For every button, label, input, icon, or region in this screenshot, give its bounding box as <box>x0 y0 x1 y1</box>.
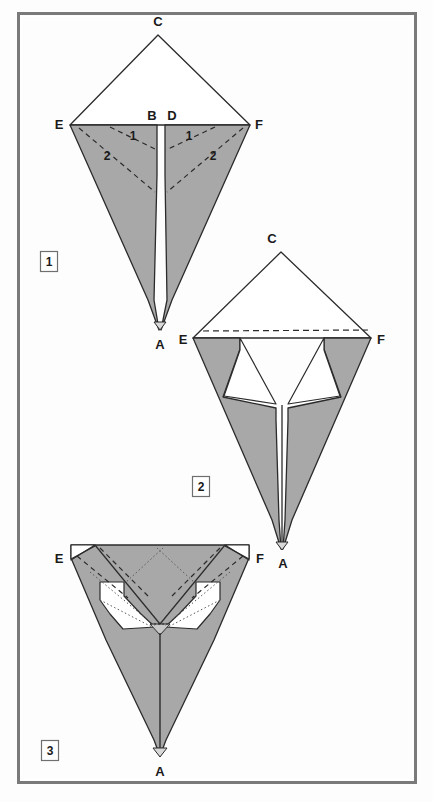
step-badge-2-label: 2 <box>198 480 205 494</box>
step-2-figure: C E F A <box>179 231 385 571</box>
origami-diagram-page: C E B D F A 1 2 1 2 <box>0 0 433 802</box>
step1-vertex-label-B: B <box>147 108 156 123</box>
step1-crease-number-1-left: 1 <box>130 129 137 143</box>
step3-vertex-label-E: E <box>55 551 64 566</box>
step2-upper-white-triangle <box>193 252 371 338</box>
step1-upper-white-triangle <box>70 35 250 125</box>
step1-crease-number-1-right: 1 <box>186 129 193 143</box>
step-3-figure: E F A <box>55 545 264 779</box>
step1-apex-tip <box>154 322 166 330</box>
step-badge-2: 2 <box>193 477 210 497</box>
step2-vertex-label-E: E <box>179 332 188 347</box>
step1-left-gray-flap <box>70 125 159 330</box>
step1-vertex-label-C: C <box>153 14 163 29</box>
step-badge-3-label: 3 <box>47 744 54 758</box>
step1-vertex-label-F: F <box>255 117 263 132</box>
step2-vertex-label-C: C <box>267 231 277 246</box>
step1-vertex-label-E: E <box>55 117 64 132</box>
step2-apex-tip <box>276 542 288 550</box>
step-badge-3: 3 <box>42 741 59 761</box>
step3-apex-tip <box>153 748 167 757</box>
step3-vertex-label-F: F <box>256 551 264 566</box>
step2-vertex-label-F: F <box>377 332 385 347</box>
step-badge-1: 1 <box>41 252 58 272</box>
step-badge-1-label: 1 <box>46 255 53 269</box>
step1-crease-number-2-left: 2 <box>104 149 111 163</box>
step1-vertex-label-D: D <box>167 108 176 123</box>
step2-vertex-label-A: A <box>278 556 288 571</box>
step1-vertex-label-A: A <box>155 337 165 352</box>
origami-diagram-canvas: C E B D F A 1 2 1 2 <box>0 0 433 802</box>
step1-crease-number-2-right: 2 <box>210 149 217 163</box>
step3-vertex-label-A: A <box>155 764 165 779</box>
